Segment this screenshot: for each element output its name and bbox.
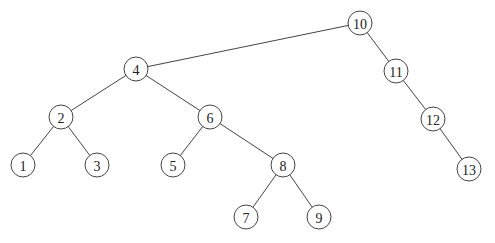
tree-node-13: 13 (457, 157, 481, 181)
node-label: 11 (389, 65, 402, 80)
node-label: 1 (20, 159, 27, 174)
nodes: 10411261213581379 (11, 11, 481, 229)
edge-4-6 (136, 69, 210, 117)
edge-6-8 (210, 117, 283, 165)
tree-node-12: 12 (421, 107, 445, 131)
tree-node-5: 5 (161, 153, 185, 177)
node-label: 13 (462, 163, 476, 178)
node-label: 2 (58, 111, 65, 126)
edge-10-4 (136, 23, 360, 69)
tree-node-3: 3 (85, 153, 109, 177)
tree-node-7: 7 (234, 205, 258, 229)
node-label: 6 (207, 111, 214, 126)
tree-node-10: 10 (348, 11, 372, 35)
tree-node-8: 8 (271, 153, 295, 177)
edges (23, 23, 469, 217)
node-label: 5 (170, 159, 177, 174)
node-label: 10 (353, 17, 367, 32)
tree-node-6: 6 (198, 105, 222, 129)
tree-node-9: 9 (307, 205, 331, 229)
edge-4-2 (61, 69, 136, 117)
tree-node-11: 11 (384, 59, 408, 83)
tree-node-1: 1 (11, 153, 35, 177)
tree-node-4: 4 (124, 57, 148, 81)
node-label: 12 (426, 113, 440, 128)
node-label: 8 (280, 159, 287, 174)
tree-diagram: 10411261213581379 (0, 0, 495, 243)
node-label: 9 (316, 211, 323, 226)
tree-node-2: 2 (49, 105, 73, 129)
node-label: 3 (94, 159, 101, 174)
node-label: 7 (243, 211, 250, 226)
node-label: 4 (133, 63, 140, 78)
